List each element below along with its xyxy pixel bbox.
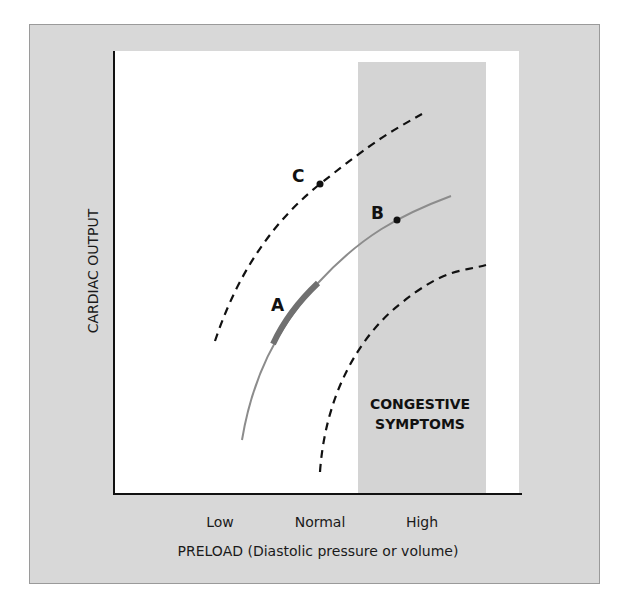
point-a-label: A [271,295,285,315]
region-label-line2: SYMPTOMS [375,416,465,432]
frank-starling-chart: C B A CONGESTIVE SYMPTOMS Low Normal Hig… [0,0,630,613]
point-b-label: B [371,203,384,223]
x-tick-high: High [406,514,438,530]
region-label-line1: CONGESTIVE [370,396,470,412]
x-axis-title: PRELOAD (Diastolic pressure or volume) [178,543,459,559]
point-c-marker [317,181,324,188]
x-tick-normal: Normal [295,514,346,530]
y-axis-title: CARDIAC OUTPUT [85,208,101,333]
point-c-label: C [292,166,304,186]
point-b-marker [394,217,401,224]
x-tick-low: Low [206,514,234,530]
